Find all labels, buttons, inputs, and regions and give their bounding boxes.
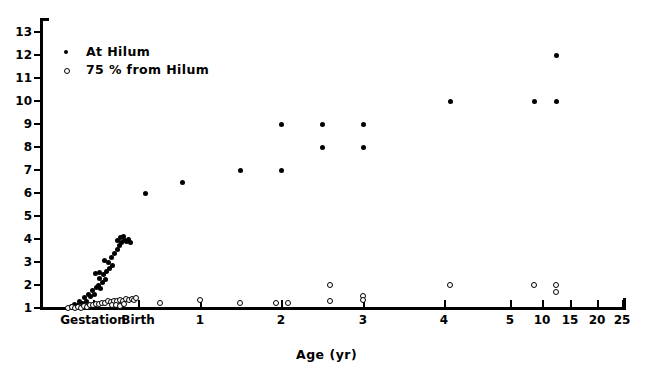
y-tick-label: 7 bbox=[12, 164, 32, 176]
y-axis-top-cap bbox=[40, 18, 49, 21]
data-point-open bbox=[327, 298, 333, 304]
y-tick bbox=[34, 146, 40, 148]
x-tick bbox=[281, 300, 283, 307]
data-point-filled bbox=[279, 122, 284, 127]
data-point-filled bbox=[180, 180, 185, 185]
y-tick bbox=[34, 100, 40, 102]
y-tick bbox=[34, 284, 40, 286]
x-tick-label: 3 bbox=[323, 314, 403, 326]
data-point-filled bbox=[98, 286, 103, 291]
y-tick bbox=[34, 31, 40, 33]
data-point-filled bbox=[361, 122, 366, 127]
y-tick bbox=[34, 169, 40, 171]
legend-label: 75 % from Hilum bbox=[86, 62, 209, 77]
y-tick-label: 3 bbox=[12, 256, 32, 268]
y-tick bbox=[34, 123, 40, 125]
x-tick-label: 1 bbox=[160, 314, 240, 326]
data-point-open bbox=[237, 300, 243, 306]
y-tick-label: 4 bbox=[12, 233, 32, 245]
y-tick bbox=[34, 215, 40, 217]
y-tick bbox=[34, 192, 40, 194]
y-tick-label: 9 bbox=[12, 118, 32, 130]
open-circle-icon bbox=[64, 68, 70, 74]
data-point-open bbox=[327, 282, 333, 288]
y-tick bbox=[34, 77, 40, 79]
y-tick bbox=[34, 307, 40, 309]
data-point-open bbox=[285, 300, 291, 306]
x-tick bbox=[570, 300, 572, 307]
data-point-open bbox=[121, 301, 127, 307]
data-point-filled bbox=[320, 145, 325, 150]
data-point-open bbox=[157, 300, 163, 306]
x-tick bbox=[510, 300, 512, 307]
x-axis-title: Age (yr) bbox=[296, 347, 357, 362]
data-point-filled bbox=[97, 276, 102, 281]
y-tick bbox=[34, 261, 40, 263]
data-point-filled bbox=[279, 168, 284, 173]
data-point-filled bbox=[115, 238, 120, 243]
y-tick bbox=[34, 238, 40, 240]
y-tick-label: 1 bbox=[12, 302, 32, 314]
data-point-filled bbox=[92, 292, 97, 297]
data-point-filled bbox=[320, 122, 325, 127]
y-tick-label: 8 bbox=[12, 141, 32, 153]
y-tick bbox=[34, 54, 40, 56]
data-point-filled bbox=[448, 99, 453, 104]
data-point-filled bbox=[554, 99, 559, 104]
data-point-filled bbox=[143, 191, 148, 196]
y-axis-line bbox=[40, 18, 43, 310]
x-tick bbox=[597, 300, 599, 307]
data-point-open bbox=[133, 295, 139, 301]
data-point-open bbox=[197, 297, 203, 303]
x-tick-label: 2 bbox=[241, 314, 321, 326]
data-point-open bbox=[360, 297, 366, 303]
data-point-filled bbox=[361, 145, 366, 150]
data-point-filled bbox=[532, 99, 537, 104]
data-point-filled bbox=[128, 240, 133, 245]
data-point-filled bbox=[106, 260, 111, 265]
data-point-filled bbox=[238, 168, 243, 173]
x-tick bbox=[622, 300, 624, 307]
y-tick-label: 5 bbox=[12, 210, 32, 222]
filled-circle-icon bbox=[64, 50, 68, 54]
y-tick-label: 11 bbox=[12, 72, 32, 84]
y-tick-label: 6 bbox=[12, 187, 32, 199]
x-tick bbox=[542, 300, 544, 307]
x-tick bbox=[138, 300, 140, 307]
data-point-open bbox=[273, 300, 279, 306]
legend-label: At Hilum bbox=[86, 44, 150, 59]
x-tick bbox=[444, 300, 446, 307]
x-axis-line bbox=[40, 307, 626, 310]
scatter-plot-figure: 12345678910111213 GestationBirth12345101… bbox=[0, 0, 658, 378]
data-point-open bbox=[553, 289, 559, 295]
x-tick-label: 25 bbox=[582, 314, 658, 326]
y-tick-label: 13 bbox=[12, 26, 32, 38]
data-point-open bbox=[531, 282, 537, 288]
data-point-open bbox=[447, 282, 453, 288]
data-point-filled bbox=[554, 53, 559, 58]
data-point-open bbox=[553, 282, 559, 288]
y-tick-label: 2 bbox=[12, 279, 32, 291]
data-point-filled bbox=[103, 277, 108, 282]
y-tick-label: 10 bbox=[12, 95, 32, 107]
y-tick-label: 12 bbox=[12, 49, 32, 61]
